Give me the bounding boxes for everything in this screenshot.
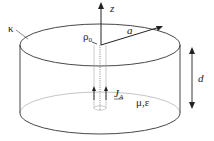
z-label: z bbox=[109, 2, 115, 14]
medium-label: μ,ε bbox=[136, 96, 150, 108]
d-arrowhead-top bbox=[189, 47, 195, 54]
rho0-arrow bbox=[92, 42, 97, 44]
z-axis-arrowhead bbox=[98, 2, 104, 9]
kappa-tick bbox=[16, 30, 28, 39]
d-label: d bbox=[198, 72, 204, 84]
current-arrowhead-left bbox=[92, 86, 96, 91]
cylindrical-cavity-diagram: κ z ρ0 a d JA μ,ε bbox=[0, 0, 214, 141]
rho0-label: ρ0 bbox=[83, 30, 93, 44]
kappa-label: κ bbox=[8, 22, 14, 34]
cylinder-bottom-front-arc bbox=[20, 113, 180, 134]
d-arrowhead-bottom bbox=[189, 102, 195, 109]
a-label: a bbox=[127, 24, 133, 36]
current-arrowhead-right bbox=[104, 86, 108, 91]
